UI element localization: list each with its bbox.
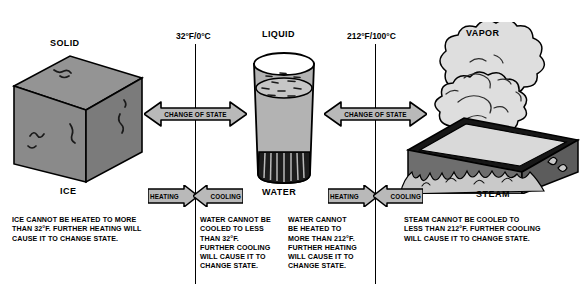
object-label-steam: STEAM: [476, 189, 510, 199]
object-label-ice: ICE: [60, 186, 77, 196]
note-line: BE HEATED TO: [288, 225, 372, 234]
water-glass-illustration: [238, 48, 330, 186]
note-line: FURTHER HEATING: [288, 244, 372, 253]
note-steam: STEAM CANNOT BE COOLED TO LESS THAN 212°…: [404, 216, 580, 244]
note-line: THAN 32°F. FURTHER HEATING WILL: [12, 225, 192, 234]
note-line: COOLED TO LESS: [200, 225, 282, 234]
note-line: WATER CANNOT BE: [200, 216, 282, 225]
vapor-cloud: [435, 22, 544, 136]
note-water-cooling: WATER CANNOT BE COOLED TO LESS THAN 32°F…: [200, 216, 282, 272]
note-line: LESS THAN 212°F. FURTHER COOLING: [404, 225, 580, 234]
state-label-solid: SOLID: [50, 38, 80, 48]
process-arrow-cooling-left: COOLING: [193, 185, 243, 207]
note-line: THAN 32°F.: [200, 235, 282, 244]
note-line: CAUSE IT TO CHANGE STATE.: [12, 235, 192, 244]
boiling-divider-line: [375, 44, 376, 284]
temperature-label-freezing: 32°F/0°C: [176, 31, 211, 41]
note-line: WILL CAUSE IT TO CHANGE STATE.: [404, 235, 580, 244]
change-of-state-arrow-fusion: CHANGE OF STATE: [144, 100, 247, 128]
temperature-label-boiling: 212°F/100°C: [347, 31, 396, 41]
note-line: WILL CAUSE IT TO: [200, 253, 282, 262]
note-line: ICE CANNOT BE HEATED TO MORE: [12, 216, 192, 225]
change-of-state-diagram: SOLID ICE: [0, 0, 585, 284]
note-line: FURTHER COOLING: [200, 244, 282, 253]
process-arrow-cooling-right: COOLING: [373, 185, 423, 207]
note-line: CHANGE STATE.: [288, 262, 372, 271]
note-line: CHANGE STATE.: [200, 262, 282, 271]
ice-cube-illustration: [8, 48, 148, 188]
note-line: WILL CAUSE IT TO: [288, 253, 372, 262]
object-label-water: WATER: [262, 187, 296, 197]
note-line: MORE THAN 212°F.: [288, 235, 372, 244]
note-line: STEAM CANNOT BE COOLED TO: [404, 216, 580, 225]
process-arrow-heating-left: HEATING: [148, 185, 198, 207]
note-water-heating: WATER CANNOT BE HEATED TO MORE THAN 212°…: [288, 216, 372, 272]
note-line: WATER CANNOT: [288, 216, 372, 225]
change-of-state-arrow-vaporization: CHANGE OF STATE: [324, 100, 427, 128]
state-label-liquid: LIQUID: [262, 29, 295, 39]
freezing-divider-line: [195, 44, 196, 284]
process-arrow-heating-right: HEATING: [328, 185, 378, 207]
state-label-vapor: VAPOR: [466, 28, 499, 38]
note-ice: ICE CANNOT BE HEATED TO MORE THAN 32°F. …: [12, 216, 192, 244]
